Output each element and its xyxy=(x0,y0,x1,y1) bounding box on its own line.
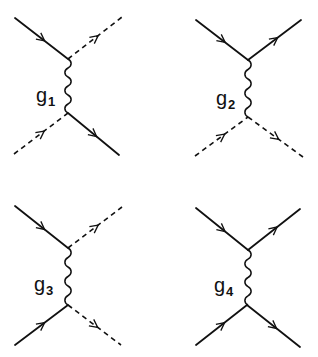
feynman-diagram-figure: g1g2g3g4 xyxy=(0,0,318,357)
leg-bottom-right-dashed xyxy=(248,117,303,157)
leg-bottom-left-dashed xyxy=(195,117,248,156)
leg-bottom-left-dashed xyxy=(14,113,68,154)
leg-top-left-solid xyxy=(15,18,68,59)
wavy-propagator xyxy=(245,250,251,305)
leg-bottom-right-solid xyxy=(68,113,119,155)
arrow-icon xyxy=(270,131,279,139)
leg-top-left-solid xyxy=(196,208,248,250)
diagram-g2: g2 xyxy=(195,20,303,157)
leg-top-right-dashed xyxy=(68,207,122,248)
coupling-subscript: 1 xyxy=(48,94,55,109)
leg-bottom-right-dashed xyxy=(68,305,121,345)
wavy-propagator xyxy=(65,59,71,113)
coupling-label: g xyxy=(36,84,47,106)
wavy-propagator xyxy=(245,60,251,117)
coupling-subscript: 4 xyxy=(226,284,234,299)
coupling-subscript: 3 xyxy=(46,283,53,298)
leg-bottom-left-solid xyxy=(196,305,247,345)
leg-top-left-solid xyxy=(196,20,248,60)
leg-top-right-solid xyxy=(248,209,300,250)
leg-bottom-left-solid xyxy=(15,305,68,345)
diagram-g3: g3 xyxy=(15,206,122,345)
coupling-label: g xyxy=(216,87,227,109)
coupling-label: g xyxy=(34,273,45,295)
diagram-g4: g4 xyxy=(196,208,300,347)
leg-top-right-dashed xyxy=(68,17,122,59)
leg-top-right-solid xyxy=(248,20,301,60)
coupling-label: g xyxy=(214,274,225,296)
wavy-propagator xyxy=(65,248,71,305)
leg-bottom-right-solid xyxy=(247,305,300,347)
coupling-subscript: 2 xyxy=(228,97,235,112)
leg-top-left-solid xyxy=(15,206,68,248)
diagram-g1: g1 xyxy=(14,17,122,155)
